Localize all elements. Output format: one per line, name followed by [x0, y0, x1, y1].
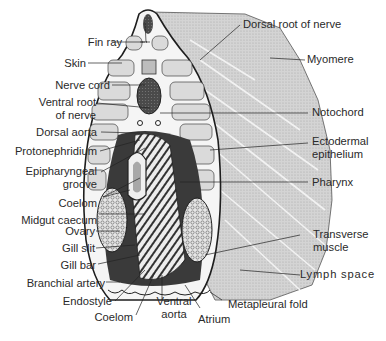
- label-notochord: Notochord: [312, 106, 364, 118]
- label-branchial-artery: Branchial artery: [27, 277, 105, 289]
- label-ventral-root-line2: of nerve: [56, 109, 96, 121]
- label-coelom-upper: Coelom: [58, 197, 97, 209]
- label-coelom-lower: Coelom: [94, 311, 133, 323]
- label-ovary: Ovary: [65, 225, 95, 237]
- label-pharynx: Pharynx: [312, 176, 353, 188]
- label-dorsal-root-of-nerve: Dorsal root of nerve: [243, 18, 341, 30]
- label-transverse-muscle-line1: Transverse: [313, 228, 369, 240]
- amphioxus-cross-section-diagram: Fin ray Skin Nerve cord Ventral root of …: [0, 0, 386, 341]
- label-epipharyngeal-groove-line1: Epipharyngeal: [25, 165, 97, 177]
- label-ventral-root-line1: Ventral root: [39, 96, 96, 108]
- label-ectodermal-epithelium-line2: epithelium: [312, 148, 363, 160]
- label-ectodermal-epithelium-line1: Ectodermal: [312, 135, 369, 147]
- label-endostyle: Endostyle: [63, 295, 112, 307]
- label-gill-bar: Gill bar: [61, 259, 96, 271]
- label-atrium: Atrium: [198, 313, 230, 325]
- label-metapleural-fold: Metapleural fold: [228, 298, 308, 310]
- label-transverse-muscle-line2: muscle: [313, 241, 348, 253]
- label-ventral-aorta-line2: aorta: [152, 308, 196, 320]
- label-lymph-space: Lymph space: [300, 268, 375, 280]
- label-fin-ray: Fin ray: [88, 36, 122, 48]
- label-dorsal-aorta: Dorsal aorta: [36, 126, 97, 138]
- label-nerve-cord: Nerve cord: [55, 79, 110, 91]
- label-protonephridium: Protonephridium: [15, 145, 97, 157]
- label-skin: Skin: [64, 57, 86, 69]
- label-gill-slit: Gill slit: [62, 242, 95, 254]
- label-epipharyngeal-groove-line2: groove: [63, 178, 97, 190]
- label-ventral-aorta-line1: Ventral: [152, 295, 196, 307]
- label-myomere: Myomere: [307, 53, 354, 65]
